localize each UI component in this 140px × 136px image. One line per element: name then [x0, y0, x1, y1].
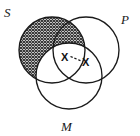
- venn-diagram: X X S P M: [0, 0, 140, 136]
- x-marker-right: X: [82, 56, 90, 68]
- label-set-p: P: [120, 12, 129, 27]
- label-set-m: M: [60, 119, 73, 134]
- venn-svg-canvas: X X S P M: [0, 0, 140, 136]
- label-set-s: S: [4, 5, 11, 20]
- x-marker-left: X: [61, 51, 69, 63]
